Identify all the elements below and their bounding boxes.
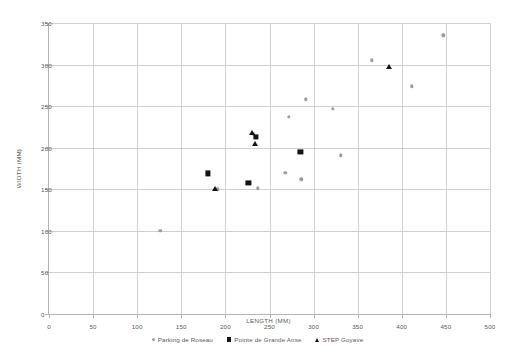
data-point-circle bbox=[339, 153, 342, 156]
square-marker-icon bbox=[227, 337, 231, 341]
x-tick-label: 100 bbox=[132, 323, 143, 330]
legend-item[interactable]: Parking de Roseau bbox=[152, 336, 213, 343]
data-point-triangle bbox=[252, 141, 258, 146]
gridline-horizontal bbox=[49, 23, 490, 24]
gridline-horizontal bbox=[49, 65, 490, 66]
data-point-square bbox=[254, 134, 259, 139]
gridline-vertical bbox=[93, 23, 94, 314]
data-point-circle bbox=[410, 84, 413, 87]
x-tick-label: 450 bbox=[440, 323, 451, 330]
y-tick-label: 0 bbox=[41, 311, 45, 318]
x-tick-label: 250 bbox=[264, 323, 275, 330]
scatter-chart: 050100150200250300350400450500 050100150… bbox=[0, 0, 515, 361]
circle-marker-icon bbox=[152, 338, 155, 341]
legend-item-label: Parking de Roseau bbox=[158, 336, 213, 343]
data-point-square bbox=[246, 180, 251, 185]
x-tick-label: 300 bbox=[308, 323, 319, 330]
y-tick-label: 350 bbox=[41, 20, 52, 27]
legend-item-label: STEP Goyave bbox=[322, 336, 363, 343]
x-tick-label: 150 bbox=[176, 323, 187, 330]
y-tick-label: 300 bbox=[41, 61, 52, 68]
y-tick-label: 100 bbox=[41, 227, 52, 234]
gridline-horizontal bbox=[49, 189, 490, 190]
y-tick-label: 150 bbox=[41, 186, 52, 193]
y-axis-title: WIDTH (MM) bbox=[14, 23, 24, 314]
data-point-square bbox=[298, 149, 303, 154]
y-axis-title-text: WIDTH (MM) bbox=[16, 149, 23, 188]
x-axis-title: LENGTH (MM) bbox=[48, 317, 489, 324]
legend-item[interactable]: STEP Goyave bbox=[315, 336, 363, 343]
gridline-horizontal bbox=[49, 272, 490, 273]
data-point-circle bbox=[284, 171, 287, 174]
data-point-square bbox=[205, 171, 210, 176]
data-point-circle bbox=[287, 115, 290, 118]
gridline-vertical bbox=[358, 23, 359, 314]
y-tick-label: 200 bbox=[41, 144, 52, 151]
data-point-circle bbox=[370, 59, 373, 62]
x-tick-label: 500 bbox=[485, 323, 496, 330]
x-tick-label: 350 bbox=[352, 323, 363, 330]
gridline-vertical bbox=[446, 23, 447, 314]
gridline-horizontal bbox=[49, 231, 490, 232]
gridline-horizontal bbox=[49, 148, 490, 149]
legend-item-label: Pointe de Grande Anse bbox=[234, 336, 301, 343]
gridline-vertical bbox=[181, 23, 182, 314]
x-tick-label: 50 bbox=[89, 323, 96, 330]
chart-legend: Parking de RoseauPointe de Grande AnseST… bbox=[0, 336, 515, 343]
y-tick bbox=[45, 314, 49, 315]
gridline-horizontal bbox=[49, 106, 490, 107]
data-point-circle bbox=[300, 178, 303, 181]
data-point-circle bbox=[158, 229, 161, 232]
x-tick-label: 200 bbox=[220, 323, 231, 330]
data-point-triangle bbox=[386, 64, 392, 69]
plot-area: 050100150200250300350400450500 050100150… bbox=[48, 23, 490, 315]
x-tick bbox=[490, 314, 491, 318]
triangle-marker-icon bbox=[315, 338, 319, 342]
gridline-vertical bbox=[490, 23, 491, 314]
gridline-vertical bbox=[137, 23, 138, 314]
y-tick-label: 50 bbox=[41, 269, 48, 276]
x-tick-label: 400 bbox=[396, 323, 407, 330]
data-point-circle bbox=[442, 34, 445, 37]
data-point-triangle bbox=[249, 130, 255, 135]
data-point-circle bbox=[331, 107, 334, 110]
x-tick-label: 0 bbox=[47, 323, 51, 330]
gridline-vertical bbox=[314, 23, 315, 314]
data-point-circle bbox=[304, 98, 307, 101]
legend-item[interactable]: Pointe de Grande Anse bbox=[227, 336, 302, 343]
gridline-vertical bbox=[270, 23, 271, 314]
y-tick-label: 250 bbox=[41, 103, 52, 110]
gridline-vertical bbox=[402, 23, 403, 314]
gridline-vertical bbox=[225, 23, 226, 314]
data-point-triangle bbox=[212, 186, 218, 191]
